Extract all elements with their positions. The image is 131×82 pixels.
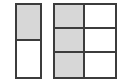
fraction-cell-shaded[interactable] [55,5,85,29]
fraction-cell-unshaded[interactable] [17,41,40,77]
fraction-cell-shaded[interactable] [55,29,85,53]
fraction-cell-shaded[interactable] [55,53,85,77]
fraction-cell-unshaded[interactable] [85,53,115,77]
diagram-canvas [0,0,131,82]
right-fraction-model [53,3,117,79]
fraction-cell-shaded[interactable] [17,5,40,41]
fraction-cell-unshaded[interactable] [85,29,115,53]
fraction-cell-unshaded[interactable] [85,5,115,29]
left-fraction-model [15,3,42,79]
